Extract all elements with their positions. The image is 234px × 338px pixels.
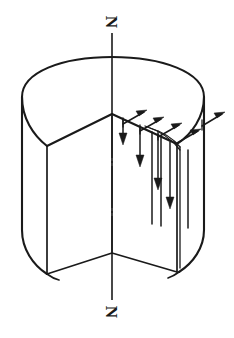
bottom-rim-right-arc — [168, 272, 179, 278]
wedge-left-face-top-edge — [47, 114, 112, 146]
right-silhouette-edge — [179, 97, 204, 272]
vector-arrow-right-edge-outer — [202, 112, 225, 126]
vector-arrow-up-right-3 — [158, 123, 182, 137]
wedge-cutout-group — [47, 114, 180, 274]
wedge-right-face-bottom-edge — [112, 253, 177, 272]
wedge-left-face-bottom-edge — [47, 253, 112, 274]
vector-arrow-down-4 — [166, 142, 174, 209]
vector-arrow-up-right-1 — [123, 110, 147, 124]
north-pole-label-bottom: N — [102, 306, 121, 319]
vector-arrow-down-1 — [119, 120, 127, 145]
top-rim-back-arc — [22, 57, 204, 97]
arrow-head — [119, 133, 127, 145]
vector-arrow-up-right-4 — [177, 129, 201, 143]
north-pole-label-top: N — [102, 16, 121, 29]
top-rim-front-left-arc — [22, 97, 47, 146]
arrow-head — [136, 155, 144, 167]
left-silhouette-edge — [22, 97, 47, 274]
vector-arrow-down-2 — [136, 127, 144, 167]
cylinder-wedge-diagram: Cylinder with wedge sector removed and m… — [0, 0, 234, 338]
magnetization-vector-field — [119, 110, 225, 228]
figure-canvas: Cylinder with wedge sector removed and m… — [0, 0, 234, 338]
top-rim-front-right-arc — [177, 97, 204, 144]
bottom-rim-left-arc — [47, 274, 59, 280]
arrow-head — [166, 197, 174, 209]
